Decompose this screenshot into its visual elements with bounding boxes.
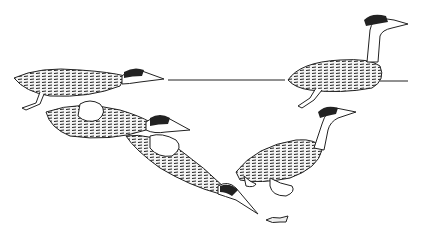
grebe-swimming-underwater <box>236 107 356 196</box>
grebe-drawing <box>0 0 423 237</box>
grebe-surface-right <box>288 15 408 108</box>
fish <box>266 216 288 223</box>
illustration <box>0 0 423 237</box>
grebe-submerging <box>46 101 190 138</box>
